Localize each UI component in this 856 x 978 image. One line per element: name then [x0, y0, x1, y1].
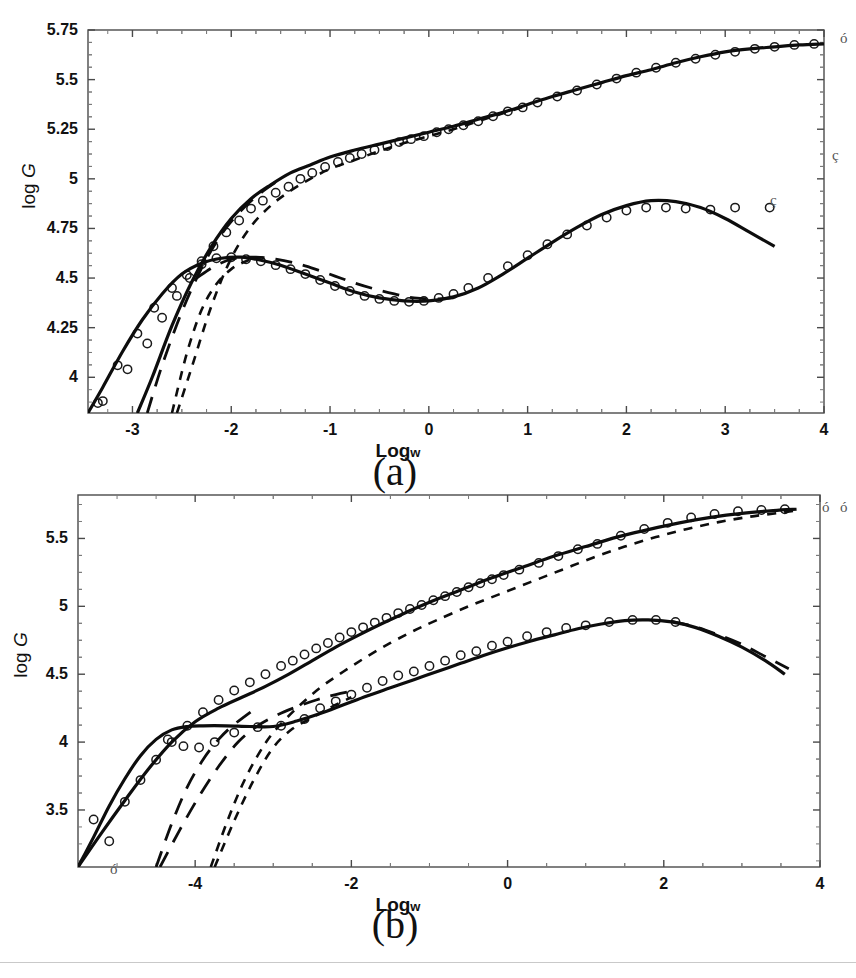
curve-solid: [78, 509, 797, 867]
x-tick-label: 1: [523, 421, 532, 439]
x-tick-label: 0: [424, 421, 433, 439]
x-tick-label: 3: [721, 421, 730, 439]
data-point-marker: [89, 815, 97, 823]
data-point-marker: [289, 656, 297, 664]
data-point-marker: [642, 203, 650, 211]
y-tick-label: 5.25: [47, 120, 78, 138]
curve-solid: [78, 620, 785, 867]
data-point-marker: [363, 684, 371, 692]
curve-dashed-long: [672, 621, 789, 669]
panel-b-plot: [0, 489, 856, 978]
y-tick-label: 5.75: [47, 21, 78, 39]
plot-frame: [88, 30, 824, 413]
x-tick-label: 2: [659, 875, 668, 893]
data-point-marker: [99, 397, 107, 405]
data-point-marker: [347, 628, 355, 636]
data-point-marker: [230, 728, 238, 736]
stray-mark-b-1: ó: [822, 499, 830, 516]
stray-mark-b-3: ó: [110, 861, 118, 878]
data-point-marker: [246, 678, 254, 686]
panel-b-y-axis-title: log G: [10, 632, 32, 677]
y-tick-label: 4.25: [47, 319, 78, 337]
data-point-marker: [662, 203, 670, 211]
series-group: [88, 40, 824, 413]
curve-dashed-long: [160, 691, 355, 868]
data-point-marker: [235, 216, 243, 224]
data-point-marker: [158, 314, 166, 322]
y-tick-label: 4: [69, 368, 78, 386]
data-point-marker: [503, 637, 511, 645]
figure-root: log G Logw (a) ó ç ç 44.254.54.7555.255.…: [0, 0, 856, 978]
panel-b-caption: (b): [372, 901, 419, 948]
stray-mark-a-1: ó: [840, 30, 848, 47]
data-point-marker: [731, 203, 739, 211]
y-tick-label: 5.5: [46, 529, 68, 547]
data-point-marker: [441, 656, 449, 664]
data-point-marker: [296, 175, 304, 183]
y-tick-label: 4.5: [46, 665, 68, 683]
y-tick-label: 4.75: [47, 219, 78, 237]
curve-dashed-long: [197, 257, 454, 299]
x-tick-label: -2: [224, 421, 238, 439]
data-point-marker: [425, 662, 433, 670]
y-tick-label: 5: [69, 170, 78, 188]
curve-solid: [88, 200, 775, 413]
data-point-marker: [259, 196, 267, 204]
panel-a-plot: [0, 0, 856, 489]
data-point-marker: [394, 671, 402, 679]
panel-a: log G Logw (a) ó ç ç 44.254.54.7555.255.…: [0, 0, 856, 489]
y-tick-label: 5.5: [56, 71, 78, 89]
panel-a-y-axis-title-var: G: [18, 163, 39, 178]
x-tick-label: -2: [344, 875, 358, 893]
x-tick-label: 0: [503, 875, 512, 893]
x-tick-label: -4: [188, 875, 202, 893]
data-point-marker: [312, 644, 320, 652]
data-point-marker: [105, 837, 113, 845]
data-point-marker: [378, 677, 386, 685]
data-point-marker: [277, 662, 285, 670]
data-point-marker: [123, 365, 131, 373]
stray-mark-b-2: ó: [840, 499, 848, 516]
data-point-marker: [335, 633, 343, 641]
data-point-marker: [261, 670, 269, 678]
panel-b: log G Logw (b) ó ó ó 3.544.555.5-4-2024: [0, 489, 856, 978]
data-point-marker: [195, 743, 203, 751]
data-point-marker: [523, 632, 531, 640]
x-tick-label: 2: [622, 421, 631, 439]
panel-a-y-axis-title-text: log: [18, 178, 39, 209]
data-point-marker: [143, 339, 151, 347]
x-tick-label: 4: [816, 875, 825, 893]
data-point-marker: [300, 650, 308, 658]
data-point-marker: [357, 150, 365, 158]
x-tick-label: 4: [820, 421, 829, 439]
data-point-marker: [472, 647, 480, 655]
footer-divider: [0, 962, 856, 963]
stray-mark-a-3: ç: [770, 192, 777, 209]
panel-b-y-axis-title-var: G: [10, 632, 31, 647]
y-tick-label: 3.5: [46, 801, 68, 819]
data-point-marker: [457, 651, 465, 659]
panel-a-y-axis-title: log G: [18, 163, 40, 208]
curve-dashed-short: [211, 511, 797, 867]
x-tick-label: -3: [125, 421, 139, 439]
data-point-marker: [230, 686, 238, 694]
series-group: [78, 505, 797, 867]
y-tick-label: 4.5: [56, 269, 78, 287]
panel-b-y-axis-title-text: log: [10, 647, 31, 678]
data-point-marker: [179, 742, 187, 750]
data-point-marker: [308, 169, 316, 177]
x-tick-label: -1: [323, 421, 337, 439]
data-point-marker: [410, 667, 418, 675]
y-tick-label: 5: [59, 597, 68, 615]
data-point-marker: [214, 696, 222, 704]
data-point-marker: [488, 642, 496, 650]
curve-solid: [137, 44, 824, 413]
y-tick-label: 4: [59, 733, 68, 751]
data-point-marker: [173, 292, 181, 300]
data-point-marker: [324, 639, 332, 647]
panel-a-caption: (a): [373, 448, 417, 495]
data-point-marker: [247, 204, 255, 212]
data-point-marker: [272, 189, 280, 197]
stray-mark-a-2: ç: [832, 147, 839, 164]
